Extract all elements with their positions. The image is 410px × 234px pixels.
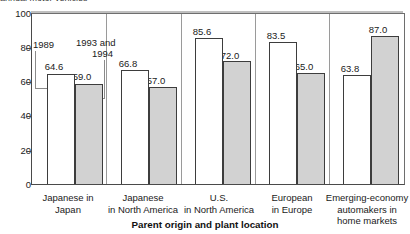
series-callout-1993-line2: 1994 (92, 48, 113, 59)
category-label-japanese-in-japan: Japanese in Japan (31, 192, 105, 215)
category-label-line: in North America (103, 204, 183, 216)
category-label-line: automakers in (325, 204, 409, 216)
y-tick-label-0: 0 (7, 180, 31, 190)
bar-1993-us-in-north-america (223, 61, 251, 184)
value-label-1989-european-in-europe: 83.5 (256, 31, 296, 41)
series-callout-1989-leader-vertical (35, 51, 36, 88)
bar-1989-european-in-europe (269, 42, 297, 184)
category-label-japanese-in-north-america: Japanese in North America (103, 192, 183, 215)
category-label-line: U.S. (179, 192, 259, 204)
category-label-line: Japanese in (31, 192, 105, 204)
category-label-line: Japanese (103, 192, 183, 204)
series-callout-1993-leader-vertical (104, 60, 105, 98)
bar-1989-japanese-in-north-america (121, 70, 149, 184)
series-callout-1989: 1989 (33, 39, 54, 50)
category-label-line: in North America (179, 204, 259, 216)
bar-1993-european-in-europe (297, 73, 325, 184)
value-label-1989-japanese-in-north-america: 66.8 (108, 59, 148, 69)
bar-1989-us-in-north-america (195, 38, 223, 184)
bar-1993-japanese-in-japan (75, 84, 103, 185)
bar-chart-figure: annual motor vehicles 100 80 60 40 20 0 (0, 0, 410, 234)
value-label-1993-emerging-economy: 87.0 (358, 25, 398, 35)
category-label-us-in-north-america: U.S. in North America (179, 192, 259, 215)
category-label-line: Japan (31, 204, 105, 216)
x-axis-title: Parent origin and plant location (0, 219, 410, 230)
bar-1989-emerging-economy (343, 75, 371, 184)
group-separator-2 (181, 14, 182, 184)
value-label-1989-japanese-in-japan: 64.6 (34, 62, 74, 72)
value-label-1989-us-in-north-america: 85.6 (182, 27, 222, 37)
y-axis: 100 80 60 40 20 0 (0, 0, 31, 234)
bar-1993-japanese-in-north-america (149, 87, 177, 184)
bar-1989-japanese-in-japan (47, 74, 75, 184)
y-tick-label-100: 100 (7, 9, 31, 19)
category-label-line: in Europe (255, 204, 329, 216)
value-label-1989-emerging-economy: 63.8 (330, 64, 370, 74)
bar-1993-emerging-economy (371, 36, 399, 184)
category-label-line: European (255, 192, 329, 204)
series-callout-1993-line1: 1993 and (76, 37, 116, 48)
category-label-european-in-europe: European in Europe (255, 192, 329, 215)
group-separator-4 (329, 14, 330, 184)
category-label-line: Emerging-economy (325, 192, 409, 204)
